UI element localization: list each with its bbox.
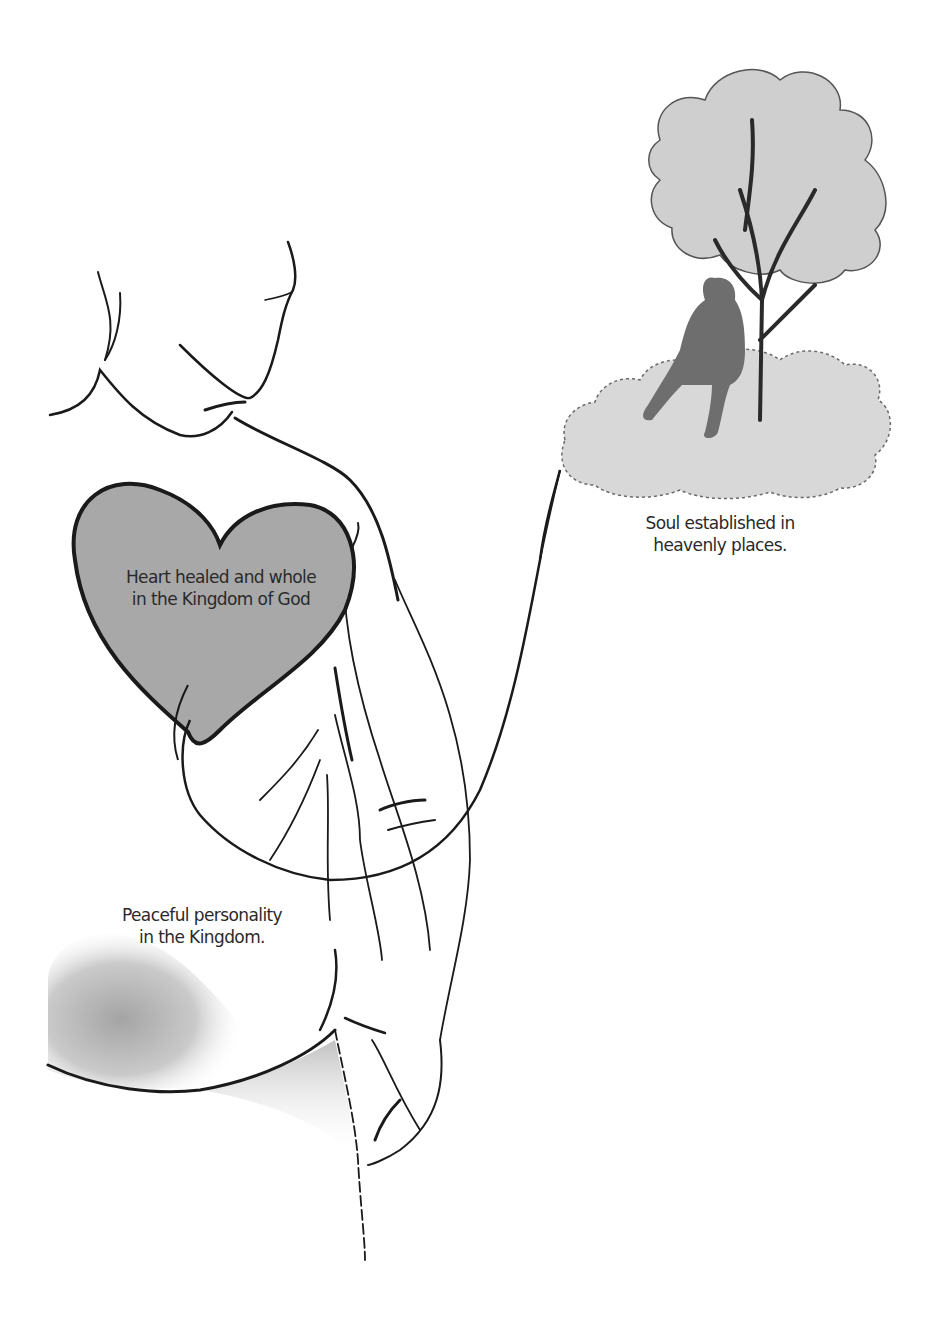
soul-label-line2: heavenly places.: [620, 534, 820, 556]
heart-shape: [74, 470, 560, 880]
heart-label: Heart healed and whole in the Kingdom of…: [96, 566, 346, 610]
illustration-canvas: Heart healed and whole in the Kingdom of…: [0, 0, 952, 1340]
soul-label: Soul established in heavenly places.: [620, 512, 820, 556]
soul-label-line1: Soul established in: [620, 512, 820, 534]
connector-line: [540, 470, 560, 560]
personality-label: Peaceful personality in the Kingdom.: [92, 904, 312, 948]
personality-label-line2: in the Kingdom.: [92, 926, 312, 948]
person-outline: [48, 242, 470, 1260]
heart-label-line2: in the Kingdom of God: [96, 588, 346, 610]
heart-label-line1: Heart healed and whole: [96, 566, 346, 588]
personality-label-line1: Peaceful personality: [92, 904, 312, 926]
